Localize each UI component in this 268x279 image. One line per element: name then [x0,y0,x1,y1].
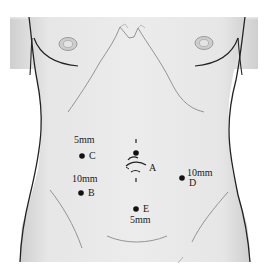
port-c-size-label: 5mm [74,135,95,145]
port-b-dot [78,190,84,196]
torso-diagram: A 5mm C 10mm B 10mm D E 5mm [0,0,268,279]
port-c-label: C [89,151,96,161]
port-c-dot [79,153,85,159]
torso-illustration [0,0,268,279]
port-e-size-label: 5mm [130,215,151,225]
port-d-label: D [189,178,196,188]
port-e-label: E [143,204,149,214]
torso-body [20,17,250,262]
port-a-label: A [149,163,156,173]
port-b-label: B [88,188,95,198]
port-e-dot [133,206,139,212]
port-a-dot [133,150,139,156]
right-nipple [195,37,213,50]
port-b-size-label: 10mm [72,174,98,184]
port-d-dot [179,175,185,181]
left-nipple [59,38,77,51]
